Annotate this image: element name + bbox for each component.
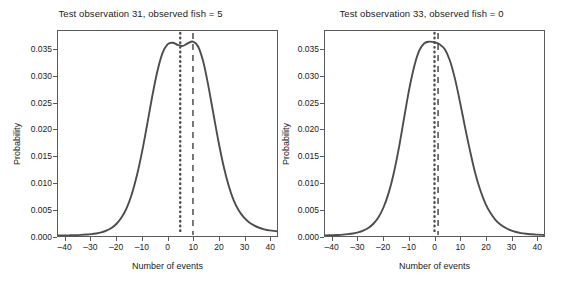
y-tick-label: 0.010: [285, 178, 319, 188]
x-tick-label: –10: [135, 242, 149, 252]
y-tick-label: 0.030: [18, 71, 52, 81]
y-tick-label: 0.005: [18, 205, 52, 215]
x-tick-mark: [332, 237, 333, 241]
x-tick-label: –30: [350, 242, 364, 252]
y-tick-mark: [53, 129, 57, 130]
x-tick-mark: [383, 237, 384, 241]
y-tick-mark: [320, 237, 324, 238]
x-tick-label: 30: [507, 242, 516, 252]
x-tick-mark: [512, 237, 513, 241]
x-tick-mark: [357, 237, 358, 241]
vertical-reference-lines: [435, 33, 439, 235]
y-tick-label: 0.010: [18, 178, 52, 188]
y-tick-mark: [53, 183, 57, 184]
y-tick-label: 0.020: [285, 124, 319, 134]
plot-svg: [325, 31, 544, 236]
plot-area: [57, 30, 278, 237]
y-tick-label: 0.000: [285, 232, 319, 242]
x-tick-mark: [142, 237, 143, 241]
y-tick-label: 0.025: [285, 98, 319, 108]
x-tick-mark: [435, 237, 436, 241]
y-tick-label: 0.000: [18, 232, 52, 242]
x-tick-mark: [460, 237, 461, 241]
x-tick-mark: [193, 237, 194, 241]
y-tick-mark: [53, 237, 57, 238]
x-tick-label: –20: [109, 242, 123, 252]
y-tick-mark: [53, 49, 57, 50]
y-tick-label: 0.030: [285, 71, 319, 81]
x-tick-label: 0: [432, 242, 437, 252]
panel-title: Test observation 33, observed fish = 0: [281, 8, 562, 19]
x-tick-mark: [90, 237, 91, 241]
y-tick-label: 0.020: [18, 124, 52, 134]
x-axis-label: Number of events: [57, 261, 278, 271]
x-tick-label: 10: [188, 242, 197, 252]
x-tick-label: 30: [240, 242, 249, 252]
plot-canvas: [58, 31, 277, 236]
y-tick-label: 0.025: [18, 98, 52, 108]
x-tick-label: –30: [83, 242, 97, 252]
distribution-curve: [58, 42, 277, 236]
plot-svg: [58, 31, 277, 236]
x-tick-mark: [409, 237, 410, 241]
panel-test-observation-31: Test observation 31, observed fish = 5 P…: [0, 0, 281, 282]
x-axis-label: Number of events: [324, 261, 545, 271]
y-tick-label: 0.005: [285, 205, 319, 215]
y-tick-mark: [320, 129, 324, 130]
y-tick-mark: [53, 156, 57, 157]
x-tick-mark: [168, 237, 169, 241]
y-tick-mark: [320, 76, 324, 77]
x-tick-mark: [219, 237, 220, 241]
x-tick-mark: [486, 237, 487, 241]
y-tick-label: 0.015: [285, 151, 319, 161]
y-tick-mark: [320, 49, 324, 50]
x-tick-label: –10: [402, 242, 416, 252]
y-tick-mark: [320, 103, 324, 104]
y-tick-mark: [53, 210, 57, 211]
vertical-reference-lines: [180, 33, 193, 235]
x-tick-label: 10: [455, 242, 464, 252]
panel-title: Test observation 31, observed fish = 5: [0, 8, 281, 19]
y-tick-label: 0.035: [18, 44, 52, 54]
y-tick-mark: [53, 76, 57, 77]
y-tick-mark: [320, 210, 324, 211]
y-tick-mark: [320, 183, 324, 184]
x-tick-label: 40: [266, 242, 275, 252]
plot-area: [324, 30, 545, 237]
x-tick-mark: [245, 237, 246, 241]
plot-canvas: [325, 31, 544, 236]
y-tick-label: 0.035: [285, 44, 319, 54]
x-tick-label: –40: [58, 242, 72, 252]
x-tick-label: 20: [481, 242, 490, 252]
x-tick-label: 0: [165, 242, 170, 252]
x-tick-label: 20: [214, 242, 223, 252]
x-tick-label: –40: [325, 242, 339, 252]
y-tick-mark: [320, 156, 324, 157]
panel-test-observation-33: Test observation 33, observed fish = 0 P…: [281, 0, 562, 282]
x-tick-label: –20: [376, 242, 390, 252]
y-tick-label: 0.015: [18, 151, 52, 161]
x-tick-mark: [270, 237, 271, 241]
x-tick-mark: [116, 237, 117, 241]
x-tick-mark: [537, 237, 538, 241]
x-tick-label: 40: [533, 242, 542, 252]
figure-root: Test observation 31, observed fish = 5 P…: [0, 0, 562, 282]
y-tick-mark: [53, 103, 57, 104]
x-tick-mark: [65, 237, 66, 241]
